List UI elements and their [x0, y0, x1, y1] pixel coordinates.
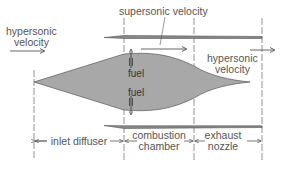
exit-velocity-label: hypersonic velocity	[207, 53, 258, 75]
inlet-diffuser-text: inlet diffuser	[48, 136, 110, 147]
supersonic-velocity-label: supersonic velocity	[119, 6, 208, 17]
section-label-inlet-diffuser: inlet diffuser	[48, 136, 110, 147]
fuel-label-bottom: fuel	[128, 87, 144, 98]
section-label-combustion-chamber: combustion chamber	[126, 130, 192, 152]
inlet-velocity-label: hypersonic velocity	[6, 26, 57, 48]
inlet-velocity-line-2: velocity	[6, 37, 57, 48]
nozzle-text: nozzle	[198, 141, 248, 152]
scramjet-diagram: hypersonic velocity supersonic velocity …	[0, 0, 282, 174]
section-label-exhaust-nozzle: exhaust nozzle	[198, 130, 248, 152]
supersonic-leader-line	[160, 17, 165, 45]
fuel-label-top: fuel	[128, 68, 144, 79]
top-cowl	[104, 36, 262, 39]
exit-velocity-line-2: velocity	[207, 64, 258, 75]
chamber-text: chamber	[126, 141, 192, 152]
